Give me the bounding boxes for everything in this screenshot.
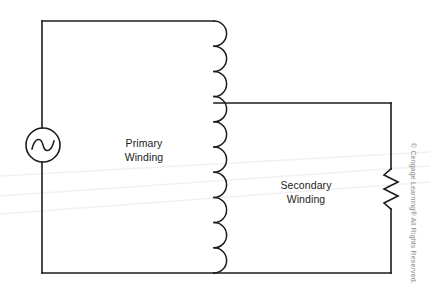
secondary-winding-label: Secondary Winding [256, 178, 356, 206]
primary-winding-label: Primary Winding [98, 136, 190, 164]
primary-winding-label-line1: Primary [98, 136, 190, 150]
scan-artifact-lines [0, 152, 430, 214]
copyright-notice: © Cengage Learning® All Rights Reserved. [409, 143, 418, 283]
secondary-winding-label-line2: Winding [256, 192, 356, 206]
secondary-winding-label-line1: Secondary [256, 178, 356, 192]
transformer-coil [214, 21, 227, 273]
primary-winding-label-line2: Winding [98, 150, 190, 164]
ac-source-sine-icon [32, 139, 54, 150]
figure-canvas: Primary Winding Secondary Winding © Ceng… [0, 0, 430, 291]
circuit-schematic [0, 0, 430, 291]
resistor-zigzag-icon [384, 169, 398, 209]
